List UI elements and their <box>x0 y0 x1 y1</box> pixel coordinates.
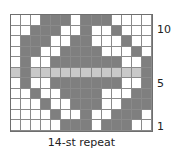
chart-cell <box>21 99 31 110</box>
chart-cell <box>81 120 91 131</box>
chart-cell <box>51 120 61 131</box>
chart-cell <box>61 110 71 121</box>
chart-cell <box>112 15 122 26</box>
chart-cell <box>11 89 21 100</box>
row-number-5: 5 <box>157 78 164 89</box>
chart-cell <box>142 68 152 79</box>
chart-cell <box>21 110 31 121</box>
chart-cell <box>41 26 51 37</box>
chart-cell <box>31 47 41 58</box>
chart-cell <box>61 26 71 37</box>
chart-cell <box>122 99 132 110</box>
chart-cell <box>142 89 152 100</box>
chart-cell <box>71 110 81 121</box>
chart-cell <box>92 68 102 79</box>
chart-cell <box>112 110 122 121</box>
chart-cell <box>112 26 122 37</box>
chart-cell <box>92 99 102 110</box>
chart-cell <box>112 120 122 131</box>
chart-cell <box>31 36 41 47</box>
chart-cell <box>132 78 142 89</box>
chart-cell <box>142 99 152 110</box>
chart-cell <box>71 120 81 131</box>
chart-cell <box>51 68 61 79</box>
chart-cell <box>31 15 41 26</box>
chart-cell <box>31 78 41 89</box>
chart-cell <box>92 47 102 58</box>
chart-cell <box>11 47 21 58</box>
chart-cell <box>71 99 81 110</box>
chart-cell <box>81 89 91 100</box>
chart-cell <box>92 89 102 100</box>
chart-cell <box>81 99 91 110</box>
chart-cell <box>41 120 51 131</box>
chart-cell <box>92 15 102 26</box>
chart-cell <box>81 57 91 68</box>
chart-cell <box>21 68 31 79</box>
chart-cell <box>102 99 112 110</box>
chart-cell <box>71 15 81 26</box>
chart-cell <box>41 110 51 121</box>
chart-cell <box>132 47 142 58</box>
chart-cell <box>41 99 51 110</box>
chart-cell <box>31 120 41 131</box>
chart-cell <box>71 89 81 100</box>
chart-cell <box>11 110 21 121</box>
chart-cell <box>61 47 71 58</box>
chart-cell <box>81 47 91 58</box>
chart-cell <box>92 110 102 121</box>
chart-cell <box>21 47 31 58</box>
chart-cell <box>112 68 122 79</box>
chart-cell <box>142 36 152 47</box>
chart-cell <box>142 57 152 68</box>
chart-cell <box>122 68 132 79</box>
chart-cell <box>112 99 122 110</box>
chart-cell <box>112 36 122 47</box>
chart-cell <box>61 57 71 68</box>
chart-cell <box>11 68 21 79</box>
chart-cell <box>92 78 102 89</box>
chart-cell <box>71 57 81 68</box>
chart-cell <box>71 47 81 58</box>
chart-cell <box>102 89 112 100</box>
chart-cell <box>41 47 51 58</box>
chart-cell <box>61 36 71 47</box>
chart-cell <box>61 120 71 131</box>
chart-cell <box>11 36 21 47</box>
chart-cell <box>122 78 132 89</box>
chart-cell <box>81 78 91 89</box>
chart-cell <box>51 36 61 47</box>
chart-cell <box>51 47 61 58</box>
chart-cell <box>21 89 31 100</box>
chart-cell <box>92 36 102 47</box>
chart-cell <box>11 120 21 131</box>
chart-cell <box>21 15 31 26</box>
chart-cell <box>142 120 152 131</box>
chart-cell <box>92 57 102 68</box>
chart-cell <box>122 110 132 121</box>
chart-cell <box>132 99 142 110</box>
chart-cell <box>142 15 152 26</box>
chart-cell <box>41 36 51 47</box>
chart-cell <box>51 15 61 26</box>
row-number-1: 1 <box>157 121 164 132</box>
chart-cell <box>142 78 152 89</box>
chart-cell <box>31 68 41 79</box>
chart-cell <box>92 120 102 131</box>
chart-cell <box>31 57 41 68</box>
chart-cell <box>31 26 41 37</box>
chart-cell <box>122 26 132 37</box>
chart-cell <box>112 57 122 68</box>
chart-cell <box>11 26 21 37</box>
chart-cell <box>31 89 41 100</box>
chart-cell <box>102 36 112 47</box>
chart-cell <box>122 47 132 58</box>
chart-cell <box>112 89 122 100</box>
chart-cell <box>21 36 31 47</box>
chart-cell <box>92 26 102 37</box>
chart-cell <box>122 57 132 68</box>
chart-cell <box>102 120 112 131</box>
chart-cell <box>132 15 142 26</box>
chart-cell <box>132 110 142 121</box>
chart-cell <box>51 99 61 110</box>
